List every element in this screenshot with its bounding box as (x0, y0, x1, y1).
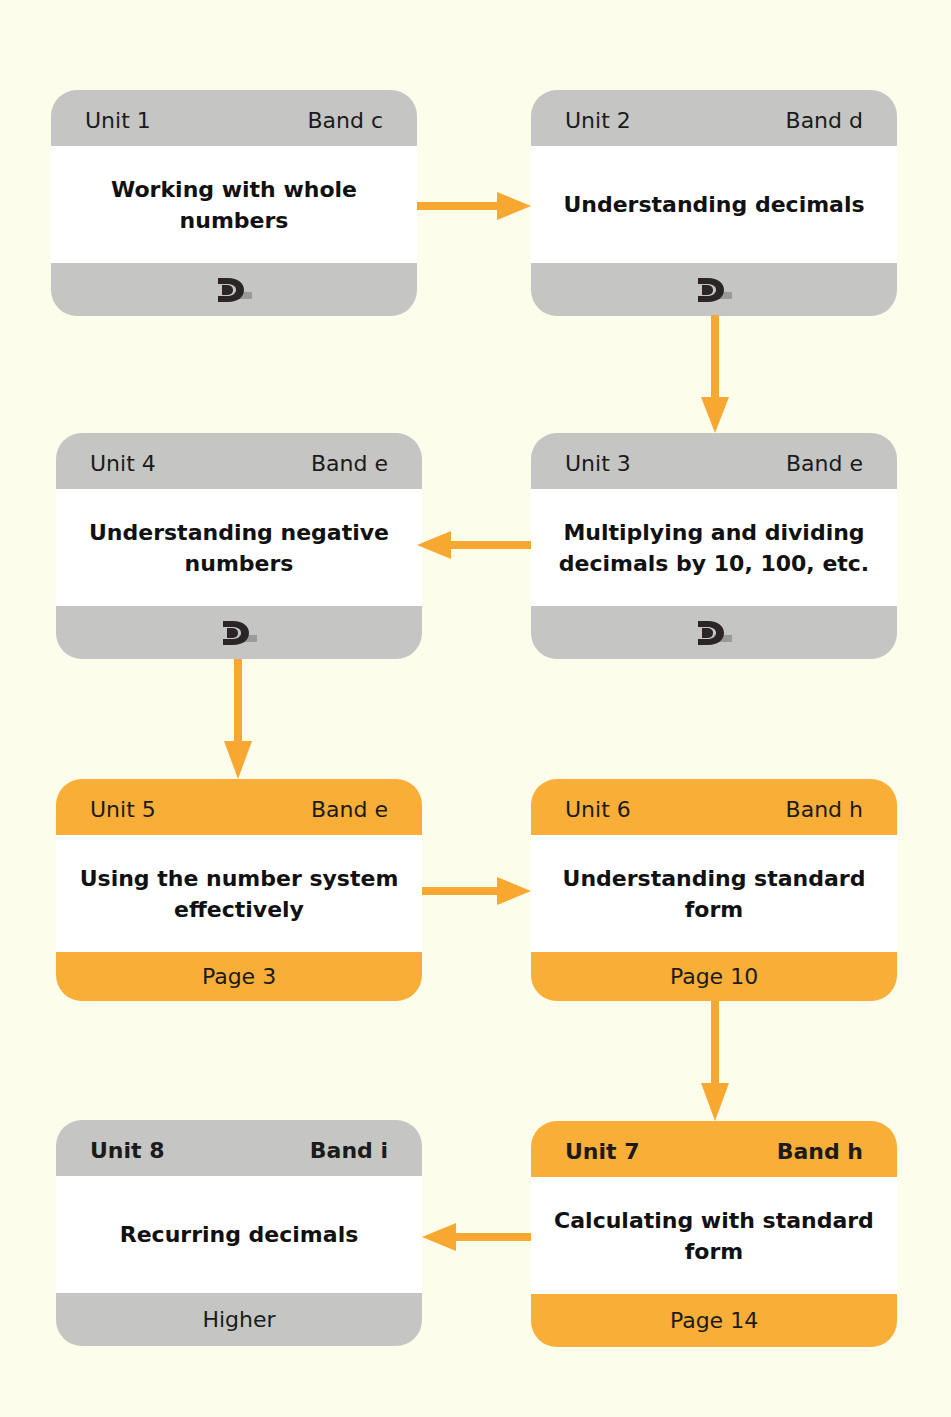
unit-card-7[interactable]: Unit 7 Band h Calculating with standard … (531, 1121, 897, 1347)
unit-label: Unit 2 (565, 108, 631, 133)
unit-card-header: Unit 7 Band h (531, 1121, 897, 1177)
band-label: Band h (777, 1139, 863, 1164)
unit-card-4[interactable]: Unit 4 Band e Understanding negative num… (56, 433, 422, 659)
unit-title: Recurring decimals (56, 1176, 422, 1293)
unit-card-3[interactable]: Unit 3 Band e Multiplying and dividing d… (531, 433, 897, 659)
unit-card-8[interactable]: Unit 8 Band i Recurring decimals Higher (56, 1120, 422, 1346)
unit-card-header: Unit 4 Band e (56, 433, 422, 489)
page-reference[interactable]: Page 14 (531, 1294, 897, 1347)
unit-label: Unit 7 (565, 1139, 640, 1164)
arrow-left-icon (417, 529, 531, 561)
unit-title: Understanding negative numbers (56, 489, 422, 606)
unit-card-footer (56, 606, 422, 659)
dl-logo-icon (694, 619, 734, 647)
arrow-down-icon (698, 1001, 732, 1121)
band-label: Band e (786, 451, 863, 476)
dl-logo-icon (219, 619, 259, 647)
page-reference[interactable]: Page 3 (56, 952, 422, 1001)
band-label: Band i (310, 1138, 388, 1163)
unit-label: Unit 6 (565, 797, 631, 822)
unit-title: Calculating with standard form (531, 1177, 897, 1294)
unit-card-footer (531, 606, 897, 659)
unit-card-5[interactable]: Unit 5 Band e Using the number system ef… (56, 779, 422, 1001)
band-label: Band c (307, 108, 383, 133)
unit-card-2[interactable]: Unit 2 Band d Understanding decimals (531, 90, 897, 316)
unit-card-footer (51, 263, 417, 316)
unit-card-header: Unit 6 Band h (531, 779, 897, 835)
arrow-right-icon (422, 875, 531, 907)
unit-label: Unit 1 (85, 108, 151, 133)
unit-card-header: Unit 2 Band d (531, 90, 897, 146)
unit-card-header: Unit 3 Band e (531, 433, 897, 489)
band-label: Band h (786, 797, 863, 822)
unit-card-6[interactable]: Unit 6 Band h Understanding standard for… (531, 779, 897, 1001)
dl-logo-icon (214, 276, 254, 304)
arrow-down-icon (221, 659, 255, 779)
dl-logo-icon (694, 276, 734, 304)
unit-card-header: Unit 5 Band e (56, 779, 422, 835)
unit-label: Unit 4 (90, 451, 156, 476)
unit-label: Unit 8 (90, 1138, 165, 1163)
unit-title: Working with whole numbers (51, 146, 417, 263)
unit-title: Using the number system effectively (56, 835, 422, 952)
unit-label: Unit 5 (90, 797, 156, 822)
page-reference[interactable]: Page 10 (531, 952, 897, 1001)
tier-label: Higher (56, 1293, 422, 1346)
unit-card-1[interactable]: Unit 1 Band c Working with whole numbers (51, 90, 417, 316)
arrow-down-icon (698, 315, 732, 433)
arrow-left-icon (422, 1221, 531, 1253)
band-label: Band e (311, 451, 388, 476)
unit-card-header: Unit 1 Band c (51, 90, 417, 146)
unit-card-footer (531, 263, 897, 316)
unit-title: Understanding standard form (531, 835, 897, 952)
unit-card-header: Unit 8 Band i (56, 1120, 422, 1176)
band-label: Band d (786, 108, 863, 133)
unit-label: Unit 3 (565, 451, 631, 476)
arrow-right-icon (417, 190, 531, 222)
unit-title: Understanding decimals (531, 146, 897, 263)
unit-title: Multiplying and dividing decimals by 10,… (531, 489, 897, 606)
band-label: Band e (311, 797, 388, 822)
